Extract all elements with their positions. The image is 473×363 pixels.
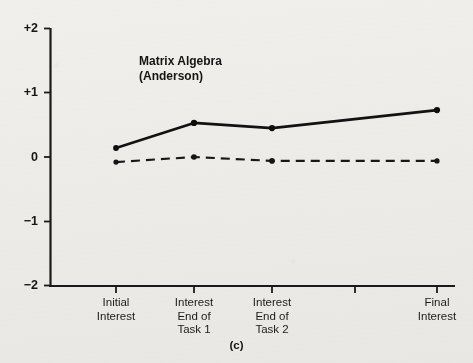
panel-caption: (c) xyxy=(0,339,473,351)
y-tick-label-minus1: −1 xyxy=(4,215,38,227)
x-tick-label-final-interest: Final Interest xyxy=(397,296,473,323)
x-tick-label-end-task-1: Interest End of Task 1 xyxy=(154,296,234,337)
x-tick-label-end-task-2: Interest End of Task 2 xyxy=(232,296,312,337)
y-tick-label-minus2: −2 xyxy=(4,279,38,291)
series-annotation-label: Matrix Algebra (Anderson) xyxy=(139,54,222,83)
chart-figure: +2 +1 0 −1 −2 Matrix Algebra (Anderson) … xyxy=(0,0,473,363)
y-tick-marks xyxy=(44,29,50,286)
series-solid-line xyxy=(116,110,437,148)
x-tick-label-initial-interest: Initial Interest xyxy=(76,296,156,323)
series-dashed-line xyxy=(116,157,437,162)
y-tick-label-plus1: +1 xyxy=(4,86,38,98)
y-tick-label-zero: 0 xyxy=(4,151,38,163)
series-solid-markers xyxy=(113,107,440,151)
y-tick-label-plus2: +2 xyxy=(4,22,38,34)
